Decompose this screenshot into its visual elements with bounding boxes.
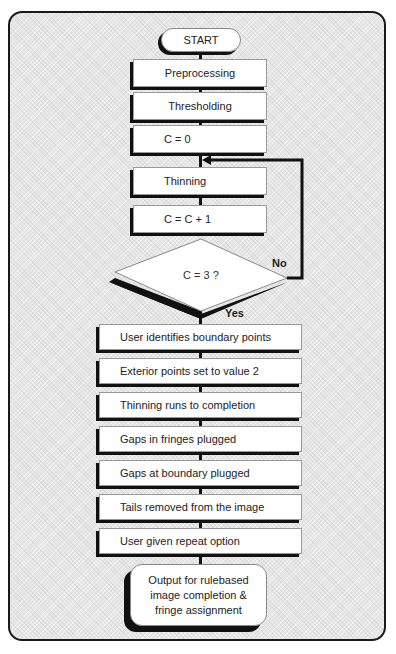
step-thinning: Thinning bbox=[133, 167, 267, 195]
output-line-3: fringe assignment bbox=[148, 603, 248, 618]
step-thinning-completion: Thinning runs to completion bbox=[99, 392, 302, 418]
step-c-equals-0: C = 0 bbox=[133, 125, 267, 153]
step-label: Gaps at boundary plugged bbox=[120, 467, 250, 479]
step-label: C = C + 1 bbox=[164, 213, 211, 225]
step-gaps-boundary: Gaps at boundary plugged bbox=[99, 460, 302, 486]
step-label: User identifies boundary points bbox=[120, 331, 271, 343]
step-label: C = 0 bbox=[164, 133, 191, 145]
step-repeat-option: User given repeat option bbox=[99, 528, 302, 554]
step-tails-removed: Tails removed from the image bbox=[99, 494, 302, 520]
step-gaps-fringes: Gaps in fringes plugged bbox=[99, 426, 302, 452]
decision-label: C = 3 ? bbox=[183, 269, 219, 281]
step-label: Exterior points set to value 2 bbox=[120, 365, 259, 377]
step-thresholding: Thresholding bbox=[133, 92, 267, 120]
arrow-head-icon bbox=[202, 155, 211, 165]
step-label: Preprocessing bbox=[165, 67, 235, 79]
output-line-1: Output for rulebased bbox=[148, 573, 248, 588]
step-label: Thinning bbox=[164, 175, 206, 187]
no-label: No bbox=[272, 257, 287, 269]
start-label: START bbox=[183, 34, 218, 46]
output-terminal: Output for rulebased image completion & … bbox=[130, 564, 267, 626]
yes-label: Yes bbox=[225, 307, 244, 319]
step-exterior-points: Exterior points set to value 2 bbox=[99, 358, 302, 384]
step-preprocessing: Preprocessing bbox=[133, 59, 267, 87]
step-label: Thinning runs to completion bbox=[120, 399, 255, 411]
step-label: User given repeat option bbox=[120, 535, 240, 547]
step-label: Gaps in fringes plugged bbox=[120, 433, 236, 445]
step-c-increment: C = C + 1 bbox=[133, 205, 267, 233]
step-label: Thresholding bbox=[168, 100, 232, 112]
step-user-identifies-boundary: User identifies boundary points bbox=[99, 324, 302, 350]
output-line-2: image completion & bbox=[148, 588, 248, 603]
step-label: Tails removed from the image bbox=[120, 501, 264, 513]
start-terminal: START bbox=[161, 28, 241, 52]
